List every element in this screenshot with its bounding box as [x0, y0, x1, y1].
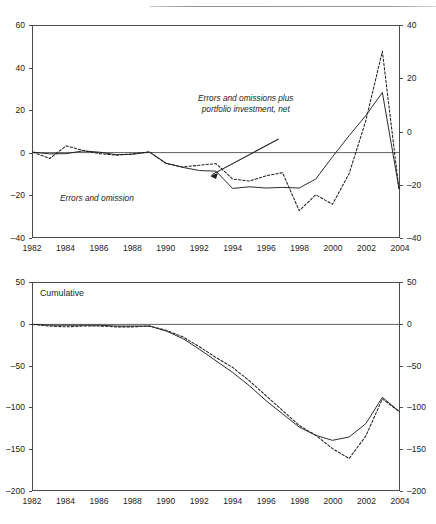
x-axis-tick-label: 2002 — [357, 244, 376, 253]
y-axis-left-tick-label: 20 — [0, 106, 25, 115]
y-axis-right-tick-label: 0 — [407, 320, 412, 329]
annotation-errors-omissions-plus-portfolio: Errors and omissions plusportfolio inves… — [198, 93, 293, 114]
y-axis-left-tick-mark — [29, 195, 32, 196]
y-axis-left-tick-mark — [29, 407, 32, 408]
x-axis-tick-label: 1990 — [156, 244, 175, 253]
y-axis-right-tick-mark — [400, 366, 403, 367]
y-axis-left-tick-mark — [29, 25, 32, 26]
x-axis-tick-label: 2004 — [391, 497, 410, 506]
y-axis-left-tick-label: 0 — [0, 320, 25, 329]
series-canvas-cumulative — [33, 283, 399, 490]
panel-label-cumulative: Cumulative — [40, 288, 84, 298]
x-axis-tick-label: 1982 — [23, 497, 42, 506]
x-axis-tick-label: 1988 — [123, 497, 142, 506]
y-axis-left-tick-mark — [29, 491, 32, 492]
y-axis-right-tick-label: –20 — [407, 181, 421, 190]
y-axis-right-tick-mark — [400, 25, 403, 26]
annotation-line: Errors and omissions plus — [198, 93, 293, 104]
y-axis-left-tick-label: 50 — [0, 278, 25, 287]
y-axis-left-tick-label: –100 — [0, 403, 25, 412]
x-axis-tick-label: 2000 — [324, 497, 343, 506]
y-axis-right-tick-mark — [400, 132, 403, 133]
y-axis-left-tick-label: –150 — [0, 445, 25, 454]
series-canvas-annual — [33, 26, 399, 237]
y-axis-left-tick-label: –40 — [0, 234, 25, 243]
annotation-line: portfolio investment, net — [198, 104, 293, 115]
x-axis-tick-label: 1992 — [190, 244, 209, 253]
cumulative-series-svg — [33, 283, 399, 490]
x-axis-tick-label: 2000 — [324, 244, 343, 253]
y-axis-right-tick-mark — [400, 407, 403, 408]
y-axis-left-tick-mark — [29, 366, 32, 367]
x-axis-tick-label: 1992 — [190, 497, 209, 506]
y-axis-right-tick-label: –150 — [407, 445, 426, 454]
y-axis-left-tick-label: 0 — [0, 149, 25, 158]
x-axis-tick-label: 1996 — [257, 244, 276, 253]
y-axis-left-tick-label: 60 — [0, 21, 25, 30]
chart-panel-annual: –40–200204060–40–20020401982198419861988… — [0, 14, 436, 266]
y-axis-left-tick-label: –200 — [0, 487, 25, 496]
y-axis-right-tick-mark — [400, 238, 403, 239]
x-axis-tick-label: 1998 — [290, 244, 309, 253]
y-axis-right-tick-mark — [400, 282, 403, 283]
annotation-line: Errors and omission — [60, 193, 134, 204]
chart-panel-cumulative: –200–150–100–50050–200–150–100–500501982… — [0, 274, 436, 524]
page-header-rule — [150, 6, 436, 7]
x-axis-tick-label: 1996 — [257, 497, 276, 506]
y-axis-left-tick-label: –20 — [0, 191, 25, 200]
y-axis-left-tick-mark — [29, 282, 32, 283]
y-axis-right-tick-label: –200 — [407, 487, 426, 496]
y-axis-left-tick-mark — [29, 449, 32, 450]
y-axis-right-tick-label: 50 — [407, 278, 416, 287]
annotation-errors-and-omission: Errors and omission — [60, 193, 134, 204]
x-axis-tick-label: 1986 — [89, 244, 108, 253]
plot-area-cumulative — [32, 282, 400, 491]
y-axis-left-tick-mark — [29, 110, 32, 111]
x-axis-tick-label: 1982 — [23, 244, 42, 253]
x-axis-tick-label: 1998 — [290, 497, 309, 506]
y-axis-left-tick-label: 40 — [0, 63, 25, 72]
annual-series-svg — [33, 26, 399, 237]
page-header-ghost-text — [252, 0, 288, 5]
x-axis-tick-label: 2004 — [391, 244, 410, 253]
y-axis-left-tick-mark — [29, 153, 32, 154]
x-axis-tick-label: 1994 — [223, 497, 242, 506]
figure-page: –40–200204060–40–20020401982198419861988… — [0, 0, 436, 524]
y-axis-right-tick-label: –100 — [407, 403, 426, 412]
x-axis-tick-label: 1990 — [156, 497, 175, 506]
series-line-solid — [33, 324, 399, 440]
y-axis-right-tick-mark — [400, 324, 403, 325]
y-axis-right-tick-label: –50 — [407, 361, 421, 370]
y-axis-right-tick-mark — [400, 78, 403, 79]
x-axis-tick-label: 2002 — [357, 497, 376, 506]
x-axis-tick-label: 1988 — [123, 244, 142, 253]
y-axis-left-tick-mark — [29, 238, 32, 239]
y-axis-right-tick-mark — [400, 185, 403, 186]
y-axis-right-tick-mark — [400, 449, 403, 450]
x-axis-tick-label: 1984 — [56, 497, 75, 506]
x-axis-tick-label: 1984 — [56, 244, 75, 253]
y-axis-right-tick-label: 20 — [407, 74, 416, 83]
leader-arrow-annotation — [210, 139, 279, 179]
plot-area-annual — [32, 25, 400, 238]
y-axis-right-tick-label: 0 — [407, 127, 412, 136]
y-axis-right-tick-label: –40 — [407, 234, 421, 243]
y-axis-left-tick-mark — [29, 68, 32, 69]
y-axis-left-tick-mark — [29, 324, 32, 325]
series-line-dashed — [33, 51, 399, 210]
y-axis-left-tick-label: –50 — [0, 361, 25, 370]
y-axis-right-tick-label: 40 — [407, 21, 416, 30]
y-axis-right-tick-mark — [400, 491, 403, 492]
x-axis-tick-label: 1986 — [89, 497, 108, 506]
x-axis-tick-label: 1994 — [223, 244, 242, 253]
